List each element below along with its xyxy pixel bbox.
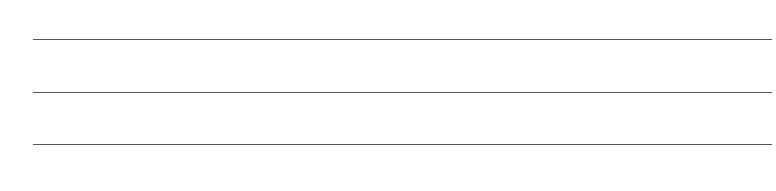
writing-line-2	[33, 92, 772, 93]
writing-line-3	[33, 144, 772, 145]
ruled-writing-area	[0, 0, 776, 191]
writing-line-1	[33, 39, 772, 40]
